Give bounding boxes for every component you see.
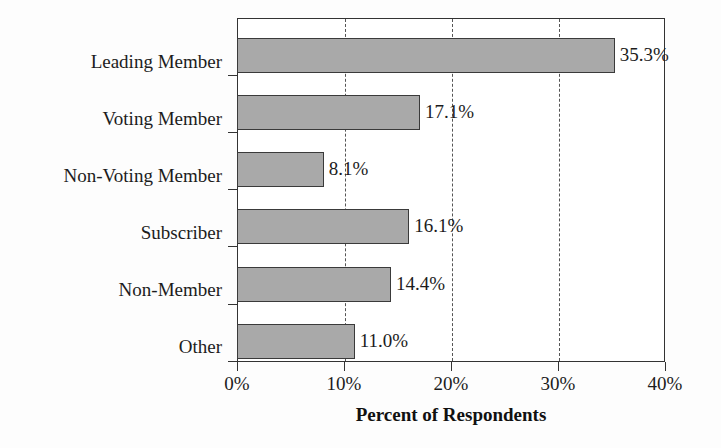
value-label-non-member: 14.4% [396, 274, 445, 293]
x-axis-tick-label-30: 30% [541, 374, 576, 393]
bar-non-member [237, 267, 391, 302]
x-axis-tick-label-0: 0% [224, 374, 249, 393]
value-label-other: 11.0% [360, 331, 408, 350]
value-label-subscriber: 16.1% [414, 216, 463, 235]
x-axis-tick-label-10: 10% [327, 374, 362, 393]
bar-non-voting-member [237, 152, 324, 187]
bar-subscriber [237, 209, 409, 244]
x-axis-title: Percent of Respondents [237, 404, 665, 426]
x-axis-tick-40 [665, 362, 666, 371]
x-axis-tick-label-20: 20% [434, 374, 469, 393]
x-axis-tick-20 [451, 362, 452, 371]
value-label-non-voting-member: 8.1% [329, 159, 369, 178]
y-axis-category-labels: Leading Member Voting Member Non-Voting … [0, 18, 222, 362]
y-axis-label-non-member: Non-Member [0, 280, 222, 299]
y-axis-label-non-voting-member: Non-Voting Member [0, 166, 222, 185]
y-axis-label-subscriber: Subscriber [0, 223, 222, 242]
y-axis-label-voting-member: Voting Member [0, 109, 222, 128]
value-label-voting-member: 17.1% [425, 102, 474, 121]
x-axis-tick-30 [558, 362, 559, 371]
bar-chart-figure: Leading Member Voting Member Non-Voting … [0, 0, 721, 448]
y-axis-label-other: Other [0, 337, 222, 356]
bar-leading-member [237, 38, 615, 73]
x-axis-tick-label-40: 40% [648, 374, 683, 393]
bar-other [237, 324, 355, 359]
y-axis-label-leading-member: Leading Member [0, 52, 222, 71]
x-axis-tick-10 [344, 362, 345, 371]
bars-layer [237, 18, 665, 362]
value-label-leading-member: 35.3% [620, 45, 669, 64]
bar-voting-member [237, 95, 420, 130]
x-axis-tick-0 [237, 362, 238, 371]
